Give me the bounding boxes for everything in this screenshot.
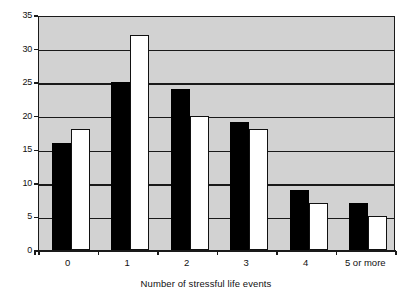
bar-series-b-4 bbox=[309, 203, 328, 250]
bar-series-a-2 bbox=[171, 89, 190, 250]
bar-series-a-3 bbox=[230, 122, 249, 250]
plot-area bbox=[39, 17, 394, 250]
x-tick-mark bbox=[34, 251, 36, 255]
bar-chart-figure: 05101520253035 Number of stressful life … bbox=[0, 0, 412, 300]
x-tick-mark bbox=[276, 251, 278, 255]
y-tick-label: 10 bbox=[22, 178, 32, 189]
bar-series-b-0 bbox=[71, 129, 90, 250]
gridline-y-20 bbox=[39, 117, 394, 119]
x-tick-label-4: 4 bbox=[303, 257, 308, 269]
plot-frame bbox=[38, 16, 395, 251]
x-tick-label-2: 2 bbox=[184, 257, 189, 269]
bar-series-b-3 bbox=[249, 129, 268, 250]
x-axis-line bbox=[34, 250, 396, 252]
x-tick-mark bbox=[217, 251, 219, 255]
y-tick-label: 15 bbox=[22, 144, 32, 155]
x-tick-label-3: 3 bbox=[244, 257, 249, 269]
bar-series-b-1 bbox=[130, 35, 149, 250]
gridline-y-25 bbox=[39, 83, 394, 85]
gridline-y-10 bbox=[39, 184, 394, 186]
bar-series-a-0 bbox=[52, 143, 71, 250]
x-tick-mark bbox=[98, 251, 100, 255]
x-tick-mark bbox=[395, 251, 397, 255]
x-tick-label-0: 0 bbox=[65, 257, 70, 269]
bar-series-a-5-or-more bbox=[349, 203, 368, 250]
gridline-y-5 bbox=[39, 218, 394, 220]
y-tick-label: 30 bbox=[22, 44, 32, 55]
bar-series-b-5-or-more bbox=[368, 216, 387, 250]
y-tick-label: 5 bbox=[27, 211, 32, 222]
x-tick-mark bbox=[157, 251, 159, 255]
bar-series-a-4 bbox=[290, 190, 309, 250]
gridline-y-15 bbox=[39, 151, 394, 153]
bar-series-b-2 bbox=[190, 116, 209, 250]
x-tick-mark bbox=[336, 251, 338, 255]
y-tick-label: 25 bbox=[22, 77, 32, 88]
x-tick-label-1: 1 bbox=[125, 257, 130, 269]
x-tick-mark bbox=[38, 251, 40, 255]
x-axis-title: Number of stressful life events bbox=[0, 278, 412, 289]
y-tick-label: 20 bbox=[22, 111, 32, 122]
gridline-y-30 bbox=[39, 50, 394, 52]
y-tick-label: 35 bbox=[22, 10, 32, 21]
bar-series-a-1 bbox=[111, 82, 130, 250]
y-axis: 05101520253035 bbox=[0, 0, 38, 251]
x-tick-label-5-or-more: 5 or more bbox=[345, 257, 386, 269]
y-tick-label: 0 bbox=[27, 245, 32, 256]
